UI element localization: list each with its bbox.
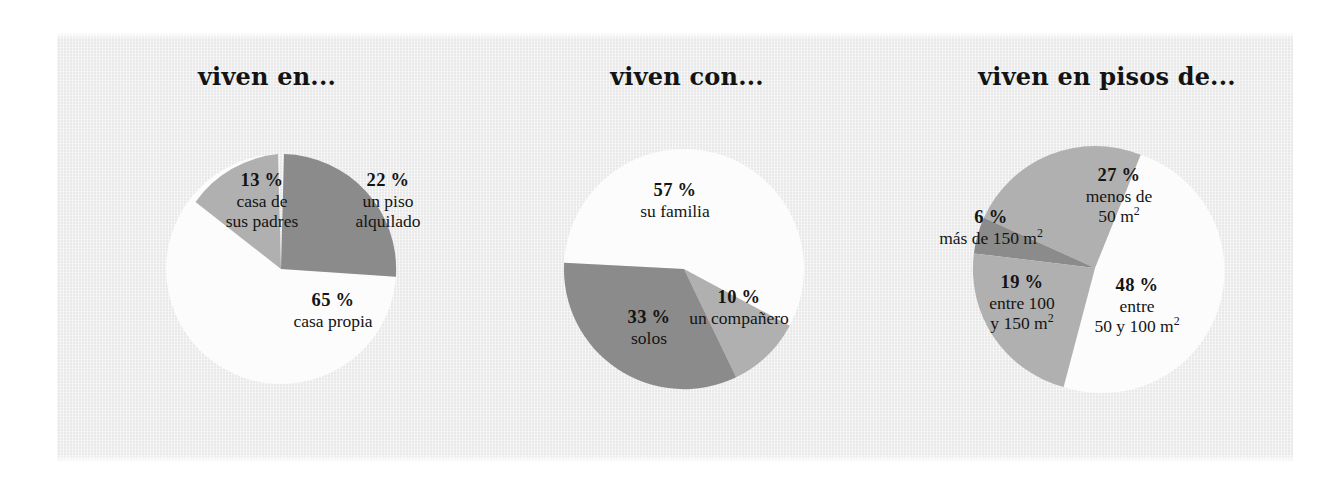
slice-pct: 27 %: [1086, 165, 1153, 186]
slice-label-piso-alquilado: 22 % un piso alquilado: [355, 170, 420, 231]
slice-pct: 19 %: [989, 272, 1055, 293]
slice-pct: 57 %: [640, 180, 710, 201]
slice-label-un-companero: 10 % un compañero: [689, 287, 789, 328]
slice-pct: 65 %: [293, 290, 372, 311]
slice-label-casa-propia: 65 % casa propia: [293, 290, 372, 331]
slice-desc-area: y 150 m2: [989, 313, 1055, 333]
superscript-two: 2: [1048, 311, 1054, 325]
slice-desc: un compañero: [689, 308, 789, 328]
slice-label-entre-50-100: 48 % entre 50 y 100 m2: [1094, 275, 1179, 336]
slice-desc: casa de sus padres: [226, 191, 298, 231]
slice-label-mas-150: 6 % más de 150 m2: [939, 207, 1043, 248]
slice-pct: 10 %: [689, 287, 789, 308]
slice-pct: 6 %: [939, 207, 1043, 228]
slice-desc: más de 150 m2: [939, 228, 1043, 248]
chart-viven-en: viven en... 22 % un piso alquilado 65 % …: [57, 0, 477, 502]
slice-label-casa-padres: 13 % casa de sus padres: [226, 170, 298, 231]
slice-desc: su familia: [640, 201, 710, 221]
chart-title-viven-en-pisos: viven en pisos de...: [897, 62, 1317, 91]
slice-desc: entre 50 y 100 m2: [1094, 296, 1179, 336]
slice-label-entre-100-150: 19 % entre 100 y 150 m2: [989, 272, 1055, 333]
slice-pct: 48 %: [1094, 275, 1179, 296]
slice-desc-area: 50 m2: [1086, 206, 1153, 226]
slice-desc-area: 50 y 100 m2: [1094, 316, 1179, 336]
slice-desc: menos de 50 m2: [1086, 186, 1153, 226]
slice-desc: entre 100 y 150 m2: [989, 293, 1055, 333]
slice-pct: 22 %: [355, 170, 420, 191]
slice-desc: un piso alquilado: [355, 191, 420, 231]
chart-viven-con: viven con... 57 % su familia 10 % un com…: [477, 0, 897, 502]
superscript-two: 2: [1134, 204, 1140, 218]
superscript-two: 2: [1037, 226, 1043, 240]
slice-desc: casa propia: [293, 311, 372, 331]
slice-label-menos-50: 27 % menos de 50 m2: [1086, 165, 1153, 226]
slice-desc: solos: [628, 328, 671, 348]
superscript-two: 2: [1174, 314, 1180, 328]
chart-viven-en-pisos: viven en pisos de... 27 % menos de 50 m2…: [897, 0, 1317, 502]
chart-title-viven-en: viven en...: [57, 62, 477, 91]
slice-label-su-familia: 57 % su familia: [640, 180, 710, 221]
chart-title-viven-con: viven con...: [477, 62, 897, 91]
slice-pct: 33 %: [628, 307, 671, 328]
infographic-figure: viven en... 22 % un piso alquilado 65 % …: [0, 0, 1343, 502]
slice-desc-area: más de 150 m2: [939, 228, 1043, 248]
slice-pct: 13 %: [226, 170, 298, 191]
slice-label-solos: 33 % solos: [628, 307, 671, 348]
